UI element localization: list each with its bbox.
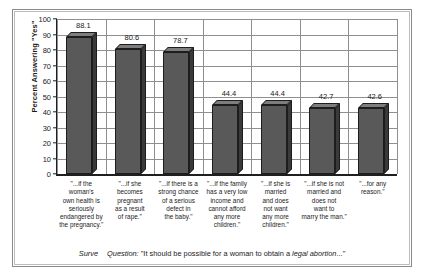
y-tick-label: 20 xyxy=(43,139,51,148)
bar-side-face xyxy=(384,103,389,174)
x-category-label: "...for anyreason." xyxy=(348,180,397,197)
y-tick-label: 90 xyxy=(43,30,51,39)
y-gridline xyxy=(57,50,397,51)
x-category-label: "...if shebecomespregnantas a resultof r… xyxy=(106,180,155,221)
bar xyxy=(261,100,287,174)
bar xyxy=(66,32,92,174)
bar-front-face xyxy=(66,37,92,174)
y-tick-label: 100 xyxy=(38,15,51,24)
x-gridline xyxy=(106,19,107,174)
x-category-label: "...if she is notmarried anddoes notwant… xyxy=(300,180,349,221)
bar-front-face xyxy=(212,105,238,174)
bar xyxy=(115,44,141,174)
bar-value-label: 88.1 xyxy=(60,21,106,30)
y-tick-label: 50 xyxy=(43,92,51,101)
bar-front-face xyxy=(115,49,141,174)
caption-source: Surve xyxy=(79,249,98,258)
plot-area: 010203040506070809010088.180.678.744.444… xyxy=(57,19,397,174)
x-category-label: "...if she ismarriedand doesnot wantany … xyxy=(251,180,300,230)
bar-front-face xyxy=(163,52,189,174)
bar-side-face xyxy=(335,103,340,174)
bar-side-face xyxy=(141,44,146,174)
caption-emphasis: legal abortion xyxy=(292,249,336,258)
bar-side-face xyxy=(92,32,97,174)
figure-caption: SurveQuestion: "It should be possible fo… xyxy=(16,249,408,258)
y-tick-label: 30 xyxy=(43,123,51,132)
y-gridline xyxy=(57,19,397,20)
bar-side-face xyxy=(287,100,292,174)
x-axis-line xyxy=(56,174,397,176)
x-axis-category-labels: "...if thewoman'sown health isseriouslye… xyxy=(57,180,397,242)
x-category-label: "...if the familyhas a very lowincome an… xyxy=(203,180,252,230)
x-gridline xyxy=(57,19,58,174)
x-gridline xyxy=(154,19,155,174)
y-tick-label: 80 xyxy=(43,46,51,55)
bar-front-face xyxy=(261,105,287,174)
chart-figure: Percent Answering "Yes" 0102030405060708… xyxy=(0,0,423,279)
y-tick-label: 0 xyxy=(47,170,51,179)
bar-value-label: 78.7 xyxy=(157,36,203,45)
y-tick-label: 70 xyxy=(43,61,51,70)
bar xyxy=(309,103,335,174)
y-tick-label: 60 xyxy=(43,77,51,86)
caption-question-word: Question: xyxy=(107,249,139,258)
x-category-label: "...if there is astrong chanceof a serio… xyxy=(154,180,203,221)
caption-question-text-after: ..." xyxy=(336,249,345,258)
y-gridline xyxy=(57,66,397,67)
bar-value-label: 80.6 xyxy=(109,33,155,42)
bar-side-face xyxy=(189,47,194,174)
bar xyxy=(358,103,384,174)
bar xyxy=(163,47,189,174)
caption-question-text-before: "It should be possible for a woman to ob… xyxy=(141,249,290,258)
y-axis-title: Percent Answering "Yes" xyxy=(30,0,39,137)
bar xyxy=(212,100,238,174)
bar-side-face xyxy=(238,100,243,174)
bar-value-label: 42.7 xyxy=(303,92,349,101)
x-category-label: "...if thewoman'sown health isseriouslye… xyxy=(57,180,106,230)
y-tick-label: 40 xyxy=(43,108,51,117)
bar-value-label: 42.6 xyxy=(352,92,398,101)
bar-value-label: 44.4 xyxy=(206,89,252,98)
y-tick-label: 10 xyxy=(43,154,51,163)
bar-front-face xyxy=(358,108,384,174)
y-gridline xyxy=(57,81,397,82)
bar-front-face xyxy=(309,108,335,174)
bar-value-label: 44.4 xyxy=(255,89,301,98)
